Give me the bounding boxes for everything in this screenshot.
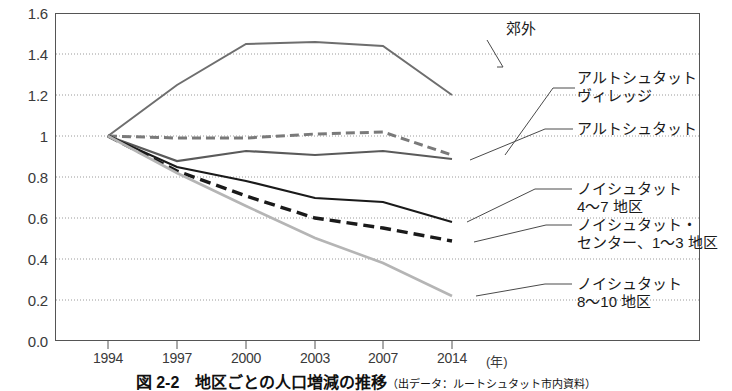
y-tick-0-0: 0.0 <box>2 333 48 350</box>
y-tick-0-4: 0.4 <box>2 251 48 268</box>
x-tick-2003: 2003 <box>283 350 347 366</box>
x-tick-2007: 2007 <box>351 350 415 366</box>
y-tick-1: 1 <box>2 128 48 145</box>
y-tick-0-8: 0.8 <box>2 169 48 186</box>
annotation-neustadt-4-7: ノイシュタット 4〜7 地区 <box>577 180 682 215</box>
y-tick-1-6: 1.6 <box>2 5 48 22</box>
x-tick-2000: 2000 <box>214 350 278 366</box>
figure-container: 1.6 1.4 1.2 1 0.8 0.6 0.4 0.2 0.0 1994 1… <box>0 0 732 391</box>
y-tick-1-2: 1.2 <box>2 87 48 104</box>
annotation-altstadt: アルトシュタット <box>577 120 697 138</box>
annotation-neustadt-8-10: ノイシュタット 8〜10 地区 <box>577 275 682 310</box>
x-tick-1994: 1994 <box>76 350 140 366</box>
annotation-neustadt-center: ノイシュタット・ センター、1〜3 地区 <box>577 216 718 251</box>
annotation-altstadt-village: アルトシュタット ヴィレッジ <box>577 69 697 104</box>
y-tick-0-2: 0.2 <box>2 292 48 309</box>
figure-caption-source: （出データ：ルートシュタット市内資料） <box>387 378 596 390</box>
figure-caption-main: 図 2-2 地区ごとの人口増減の推移 <box>136 374 388 391</box>
x-tick-2014: 2014 <box>420 350 484 366</box>
annotation-suburb: 郊外 <box>506 20 536 38</box>
x-tick-marks <box>108 341 452 349</box>
x-axis-unit: (年) <box>486 351 508 370</box>
y-tick-1-4: 1.4 <box>2 46 48 63</box>
x-tick-1997: 1997 <box>145 350 209 366</box>
figure-caption: 図 2-2 地区ごとの人口増減の推移（出データ：ルートシュタット市内資料） <box>0 369 732 391</box>
y-tick-0-6: 0.6 <box>2 210 48 227</box>
